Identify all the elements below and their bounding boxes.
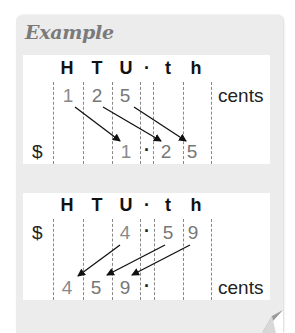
header-tens: T [92, 195, 103, 216]
digit: 9 [188, 222, 199, 244]
dollar-sign: $ [32, 222, 43, 244]
digit: 5 [91, 277, 102, 299]
example-title: Example [25, 21, 114, 43]
header-point: · [144, 195, 150, 216]
digit: 5 [120, 85, 131, 107]
header-tens: T [92, 58, 103, 79]
header-hundredths: h [191, 58, 202, 79]
digit: 1 [63, 85, 74, 107]
header-tenths: t [165, 58, 171, 79]
header-units: U [120, 195, 133, 216]
digit: 4 [62, 277, 73, 299]
digit: 2 [161, 141, 172, 163]
unit-cents: cents [218, 85, 263, 107]
header-hundreds: H [61, 58, 74, 79]
decimal-point: · [144, 276, 150, 297]
unit-cents: cents [218, 277, 263, 299]
digit: 1 [121, 141, 132, 163]
header-point: · [144, 58, 150, 79]
decimal-point: · [144, 221, 150, 242]
digit: 5 [163, 222, 174, 244]
digit: 5 [187, 141, 198, 163]
header-hundredths: h [191, 195, 202, 216]
header-hundreds: H [61, 195, 74, 216]
digit: 9 [120, 277, 131, 299]
digit: 2 [92, 85, 103, 107]
header-units: U [120, 58, 133, 79]
dollar-sign: $ [32, 141, 43, 163]
header-tenths: t [165, 195, 171, 216]
decimal-point: · [144, 140, 150, 161]
digit: 4 [120, 222, 131, 244]
